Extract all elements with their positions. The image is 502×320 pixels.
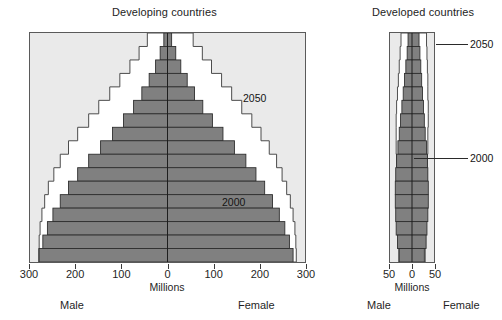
x-axis-developing-tick-label-3: 0: [164, 268, 170, 280]
chart-title-developing: Developing countries: [112, 6, 217, 18]
plot-layer-developed: [390, 33, 434, 262]
x-axis-developed-tick-label-1: 0: [409, 268, 415, 280]
chart-title-developed: Developed countries: [372, 6, 474, 18]
x-axis-label-developing: Millions: [149, 281, 184, 293]
annotation-2050-developing: 2050: [243, 92, 266, 104]
female-label-developing: Female: [238, 299, 275, 311]
leader-line-2000: [414, 158, 468, 159]
x-axis-developing-tick-label-2: 100: [112, 268, 130, 280]
x-axis-developing-tick-label-0: 300: [20, 268, 38, 280]
plot-area-developed: [389, 32, 435, 263]
population-pyramid-figure: Developing countries Developed countries…: [0, 0, 502, 320]
x-axis-developed-tick-label-0: 50: [383, 268, 395, 280]
annotation-2000-developed: 2000: [470, 152, 493, 164]
annotation-2000-developing: 2000: [222, 196, 245, 208]
pyramid-svg-developing: [30, 33, 305, 262]
x-axis-developing: 3002001000100200300: [29, 264, 306, 278]
x-axis-label-developed: Millions: [394, 281, 429, 293]
plot-area-developing: [29, 32, 306, 263]
plot-layer-developing: [30, 33, 305, 262]
x-axis-developing-tick-label-1: 200: [66, 268, 84, 280]
x-axis-developed: 50050: [389, 264, 435, 278]
male-label-developed: Male: [367, 299, 391, 311]
x-axis-developing-tick-label-6: 300: [297, 268, 315, 280]
x-axis-developed-tick-label-2: 50: [429, 268, 441, 280]
x-axis-developing-tick-label-4: 100: [204, 268, 222, 280]
x-axis-developing-tick-label-5: 200: [251, 268, 269, 280]
pyramid-svg-developed: [390, 33, 434, 262]
male-label-developing: Male: [60, 299, 84, 311]
leader-line-2050: [436, 44, 468, 45]
annotation-2050-developed: 2050: [470, 38, 493, 50]
female-label-developed: Female: [443, 299, 480, 311]
